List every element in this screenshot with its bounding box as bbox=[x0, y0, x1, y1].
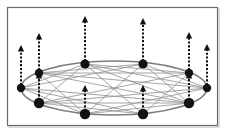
graph-node bbox=[80, 59, 89, 68]
graph-node bbox=[203, 84, 211, 92]
figure-frame bbox=[8, 8, 220, 128]
graph-node bbox=[184, 98, 194, 108]
graph-node bbox=[80, 109, 90, 119]
ring-network-diagram bbox=[0, 0, 232, 134]
graph-node bbox=[35, 69, 43, 77]
graph-node bbox=[138, 59, 147, 68]
figure-root bbox=[0, 0, 232, 134]
graph-node bbox=[138, 109, 148, 119]
graph-node bbox=[17, 84, 25, 92]
graph-node bbox=[34, 98, 44, 108]
graph-node bbox=[185, 69, 193, 77]
